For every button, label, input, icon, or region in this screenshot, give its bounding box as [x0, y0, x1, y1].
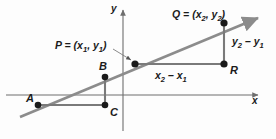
run-label: x2 – x1 — [155, 70, 187, 81]
point-a-label: A — [26, 93, 34, 104]
point-b-label: B — [99, 61, 107, 72]
q-coord-prefix: Q = (x — [172, 8, 201, 20]
point-p-coordinate-label: P = (x1, y1) — [55, 40, 107, 51]
q-coord-sub1: 2 — [201, 14, 205, 23]
q-coord-mid: , y — [206, 8, 218, 20]
run-prefix: x — [155, 69, 161, 81]
y-axis-label: y — [111, 4, 117, 14]
point-q-coordinate-label: Q = (x2, y2) — [172, 9, 225, 20]
p-coord-mid: , y — [87, 39, 99, 51]
point-c-label: C — [110, 107, 118, 118]
p-coord-sub2: 1 — [99, 45, 103, 54]
x-axis-label: x — [252, 96, 258, 106]
p-coord-prefix: P = (x — [55, 39, 83, 51]
point-c — [102, 102, 109, 109]
point-r-label: R — [230, 65, 238, 76]
q-coord-suffix: ) — [222, 8, 226, 20]
rise-prefix: y — [232, 35, 238, 47]
rise-sub2: 1 — [260, 41, 264, 50]
point-b — [102, 74, 109, 81]
rise-sub1: 2 — [238, 41, 242, 50]
rise-minus: – y — [242, 35, 260, 47]
run-sub1: 2 — [161, 75, 165, 84]
figure-container: x y A B C R P = (x1, y1) Q = (x2, y2) x2… — [0, 0, 276, 139]
p-coord-sub1: 1 — [83, 45, 87, 54]
run-sub2: 1 — [183, 75, 187, 84]
point-r — [220, 60, 227, 67]
point-p — [131, 60, 138, 67]
point-a — [35, 102, 42, 109]
diagonal-line — [20, 18, 258, 117]
rise-label: y2 – y1 — [232, 36, 264, 47]
q-coord-sub2: 2 — [217, 14, 221, 23]
run-minus: – x — [165, 69, 183, 81]
p-coord-suffix: ) — [103, 39, 107, 51]
leader-line-p — [113, 49, 131, 60]
